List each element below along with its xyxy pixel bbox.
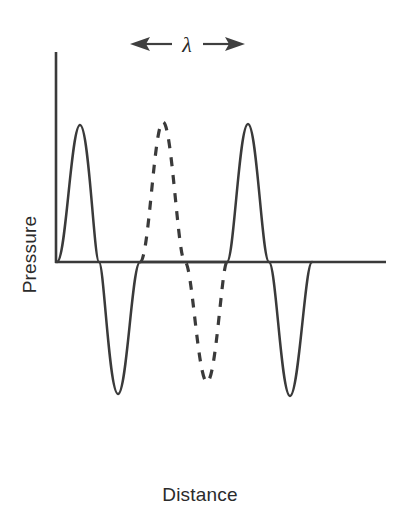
pressure-vs-distance-figure: λ Pressure Distance (0, 0, 400, 508)
x-axis-label: Distance (0, 484, 400, 506)
y-axis-label-text: Pressure (21, 215, 40, 293)
pressure-wave-dashed (140, 122, 227, 382)
wave-plot: λ (0, 0, 400, 508)
pressure-wave-solid (57, 124, 312, 396)
y-axis-label: Pressure (0, 0, 60, 508)
x-axis-label-text: Distance (162, 484, 238, 505)
wavelength-symbol: λ (181, 32, 192, 57)
wavelength-arrow: λ (130, 32, 245, 57)
